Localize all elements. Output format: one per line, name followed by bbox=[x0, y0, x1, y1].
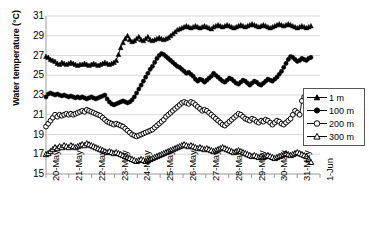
x-axis-tick-label: 28-May bbox=[233, 151, 244, 181]
marker-filled-triangle bbox=[114, 58, 119, 62]
y-axis-tick-label: 29 bbox=[22, 31, 44, 41]
legend-label: 200 m bbox=[328, 119, 354, 129]
marker-filled-circle bbox=[141, 79, 145, 83]
x-axis-tick-label: 30-May bbox=[278, 151, 289, 181]
y-axis-tick-labels: 151719212325272931 bbox=[18, 0, 44, 231]
y-axis-tick-label: 23 bbox=[22, 90, 44, 100]
y-axis-tick-label: 17 bbox=[22, 149, 44, 159]
x-axis-tick-label: 20-May bbox=[50, 151, 61, 181]
marker-filled-circle bbox=[150, 64, 154, 68]
x-axis-tick-label: 27-May bbox=[210, 151, 221, 181]
marker-filled-circle bbox=[153, 60, 157, 64]
marker-filled-circle bbox=[309, 55, 313, 59]
x-axis-tick-label: 25-May bbox=[164, 151, 175, 181]
x-axis-tick-label: 22-May bbox=[96, 151, 107, 181]
marker-filled-circle bbox=[279, 69, 283, 73]
x-axis-tick-label: 23-May bbox=[119, 151, 130, 181]
marker-filled-circle bbox=[146, 71, 150, 75]
x-axis-tick-label: 24-May bbox=[141, 151, 152, 181]
legend-marker-open-triangle-icon bbox=[306, 131, 328, 142]
marker-filled-circle bbox=[134, 91, 138, 95]
y-axis-tick-label: 15 bbox=[22, 169, 44, 179]
marker-filled-circle bbox=[144, 75, 148, 79]
marker-filled-circle bbox=[103, 93, 107, 97]
chart-container: Water temperature (°C) 15171921232527293… bbox=[0, 0, 369, 231]
marker-filled-circle bbox=[282, 65, 286, 69]
legend-item-1-m: 1 m bbox=[306, 91, 361, 104]
marker-filled-circle bbox=[284, 61, 288, 65]
y-axis-tick-label: 25 bbox=[22, 70, 44, 80]
legend-item-100-m: 100 m bbox=[306, 104, 361, 117]
marker-filled-triangle bbox=[116, 52, 121, 56]
x-axis-tick-label: 1-Jun bbox=[324, 158, 335, 181]
legend-marker-filled-triangle-icon bbox=[306, 92, 328, 103]
legend-item-200-m: 200 m bbox=[306, 117, 361, 130]
y-axis-tick-label: 27 bbox=[22, 51, 44, 61]
legend-marker-open-circle-icon bbox=[306, 118, 328, 129]
marker-filled-circle bbox=[137, 87, 141, 91]
y-axis-tick-label: 19 bbox=[22, 130, 44, 140]
marker-filled-circle bbox=[132, 95, 136, 99]
marker-filled-circle bbox=[139, 83, 143, 87]
y-axis-tick-label: 31 bbox=[22, 11, 44, 21]
legend-item-300-m: 300 m bbox=[306, 130, 361, 143]
y-axis-tick-label: 21 bbox=[22, 110, 44, 120]
legend-label: 300 m bbox=[328, 132, 354, 142]
x-axis-tick-label: 29-May bbox=[256, 151, 267, 181]
legend-marker-filled-circle-icon bbox=[306, 105, 328, 116]
x-axis-tick-label: 26-May bbox=[187, 151, 198, 181]
x-axis-tick-label: 21-May bbox=[73, 151, 84, 181]
legend-label: 1 m bbox=[328, 93, 344, 103]
marker-filled-triangle bbox=[118, 45, 123, 49]
x-axis-tick-label: 31-May bbox=[301, 151, 312, 181]
chart-legend: 1 m100 m200 m300 m bbox=[303, 88, 365, 146]
legend-label: 100 m bbox=[328, 106, 354, 116]
marker-open-circle bbox=[297, 112, 302, 117]
